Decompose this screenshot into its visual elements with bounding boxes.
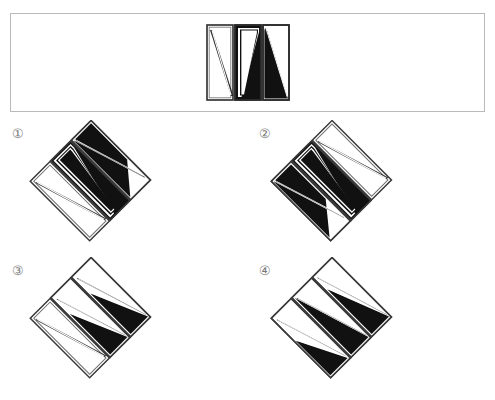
option-1-figure-wrap: [28, 120, 168, 252]
option-3[interactable]: ③: [0, 255, 247, 392]
options-area: ①: [0, 118, 495, 393]
option-3-figure-wrap: [28, 257, 168, 389]
option-4[interactable]: ④: [247, 255, 494, 392]
stimulus-panel-right: [263, 25, 289, 100]
option-3-label: ③: [10, 263, 26, 279]
option-2-figure: [269, 120, 394, 242]
option-1-figure: [28, 120, 153, 242]
option-4-figure: [269, 257, 394, 379]
stimulus-figure: [205, 22, 291, 104]
stimulus-panel-left: [207, 25, 234, 100]
stimulus-figure-wrap: [11, 14, 484, 111]
stimulus-panel: [10, 13, 485, 112]
option-2[interactable]: ②: [247, 118, 494, 255]
option-2-figure-wrap: [269, 120, 409, 252]
option-4-figure-wrap: [269, 257, 409, 389]
stimulus-panel-middle: [235, 25, 261, 100]
option-1[interactable]: ①: [0, 118, 247, 255]
option-1-label: ①: [10, 126, 26, 142]
option-3-figure: [28, 257, 153, 379]
